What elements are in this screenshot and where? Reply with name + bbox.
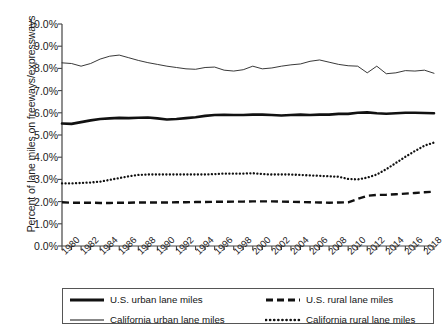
y-axis-tick-label: 9.0% [14, 40, 58, 52]
y-axis-tick-label: 1.0% [14, 218, 58, 230]
legend-swatch-solid-thick-icon [69, 295, 105, 305]
y-axis-tick-label: 4.0% [14, 151, 58, 163]
series-line-1 [62, 192, 434, 203]
legend-label: California urban lane miles [110, 314, 225, 325]
plot-svg [62, 24, 434, 246]
series-line-0 [62, 112, 434, 124]
legend-swatch-solid-thin-icon [69, 315, 105, 325]
legend-item-ca-urban: California urban lane miles [69, 314, 265, 325]
y-axis-tick-label: 5.0% [14, 129, 58, 141]
legend-item-ca-rural: California rural lane miles [265, 314, 415, 325]
legend-row: U.S. urban lane miles U.S. rural lane mi… [69, 293, 427, 306]
y-axis-tick-labels: 0.0%1.0%2.0%3.0%4.0%5.0%6.0%7.0%8.0%9.0%… [8, 24, 58, 246]
series-line-2 [62, 55, 434, 74]
legend-swatch-dashed-icon [265, 295, 301, 305]
y-axis-tick-label: 8.0% [14, 62, 58, 74]
legend-label: California rural lane miles [306, 314, 415, 325]
chart-legend: U.S. urban lane miles U.S. rural lane mi… [62, 288, 434, 324]
legend-swatch-dotted-icon [265, 315, 301, 325]
series-line-3 [62, 143, 434, 184]
x-axis-tick-labels: 1980198219841986198819901992199419961998… [62, 249, 434, 289]
plot-area [62, 24, 434, 246]
legend-item-us-urban: U.S. urban lane miles [69, 294, 265, 305]
y-axis-tick-label: 2.0% [14, 196, 58, 208]
y-axis-tick-label: 6.0% [14, 107, 58, 119]
y-axis-tick-label: 10.0% [14, 18, 58, 30]
legend-label: U.S. urban lane miles [110, 294, 203, 305]
y-axis-tick-label: 0.0% [14, 240, 58, 252]
y-axis-tick-label: 3.0% [14, 173, 58, 185]
legend-row: California urban lane miles California r… [69, 313, 427, 326]
legend-item-us-rural: U.S. rural lane miles [265, 294, 393, 305]
legend-label: U.S. rural lane miles [306, 294, 393, 305]
y-axis-tick-label: 7.0% [14, 85, 58, 97]
